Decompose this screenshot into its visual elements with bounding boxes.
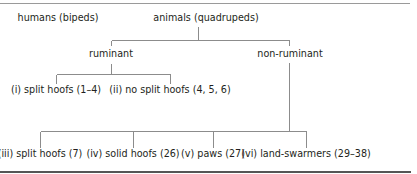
node-no-split-hoofs-ii: (ii) no split hoofs (4, 5, 6) xyxy=(109,84,230,96)
node-paws-v: (v) paws (27) xyxy=(181,148,245,160)
node-ruminant: ruminant xyxy=(89,48,133,60)
node-animals: animals (quadrupeds) xyxy=(153,12,258,24)
node-split-hoofs-iii: (iii) split hoofs (7) xyxy=(0,148,82,160)
node-split-hoofs-i: (i) split hoofs (1–4) xyxy=(11,84,101,96)
node-solid-hoofs-iv: (iv) solid hoofs (26) xyxy=(86,148,179,160)
node-humans: humans (bipeds) xyxy=(18,12,99,24)
node-non-ruminant: non-ruminant xyxy=(257,48,322,60)
bottom-rule xyxy=(0,171,411,173)
node-land-swarmers-vi: (vi) land-swarmers (29–38) xyxy=(241,148,371,160)
